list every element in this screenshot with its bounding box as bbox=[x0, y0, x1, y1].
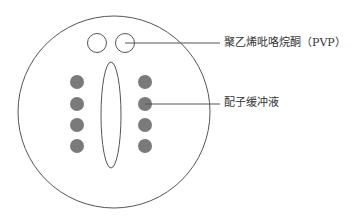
buffer-drop-left-4 bbox=[70, 139, 84, 153]
buffer-drop-right-1 bbox=[138, 75, 152, 89]
pvp-drop-left bbox=[88, 34, 107, 53]
central-elongated-drop bbox=[101, 62, 121, 168]
buffer-drop-left-3 bbox=[70, 118, 84, 132]
diagram-canvas: 聚乙烯吡咯烷酮（PVP） 配子缓冲液 bbox=[0, 0, 361, 224]
dish-diagram bbox=[0, 0, 361, 224]
buffer-drop-left-2 bbox=[70, 97, 84, 111]
culture-dish-outline bbox=[18, 16, 210, 208]
buffer-drop-right-3 bbox=[138, 118, 152, 132]
buffer-label: 配子缓冲液 bbox=[224, 96, 279, 110]
buffer-drop-left-1 bbox=[70, 75, 84, 89]
buffer-drop-right-4 bbox=[138, 139, 152, 153]
pvp-label: 聚乙烯吡咯烷酮（PVP） bbox=[224, 36, 346, 50]
